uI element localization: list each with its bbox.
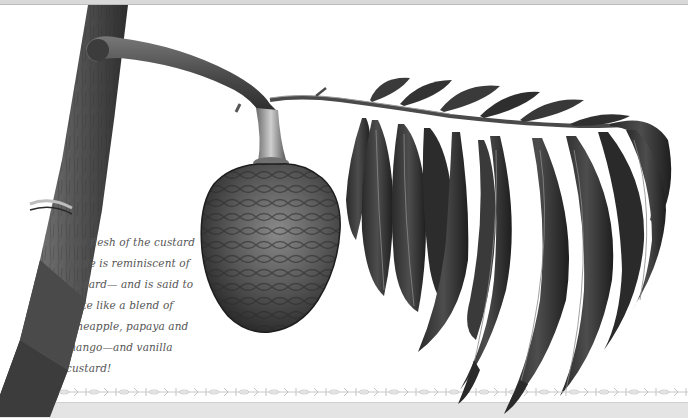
leaves [346, 78, 671, 410]
bottom-scan-band [0, 402, 688, 418]
caption-line: The flesh of the custard [66, 232, 226, 253]
caption-line: custard! [66, 358, 226, 379]
caption-line: custard— and is said to [66, 274, 226, 295]
decorative-border [0, 384, 688, 400]
caption-line: taste like a blend of [66, 295, 226, 316]
caption-text: The flesh of the custard apple is remini… [66, 232, 226, 379]
caption-line: mango—and vanilla [66, 337, 226, 358]
fruit-stem [253, 108, 289, 169]
caption-line: apple is reminiscent of [66, 253, 226, 274]
caption-line: pineapple, papaya and [66, 316, 226, 337]
